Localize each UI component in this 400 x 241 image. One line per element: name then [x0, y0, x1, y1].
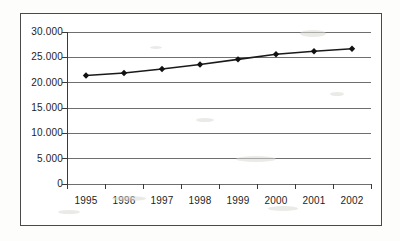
series-line — [86, 49, 352, 76]
chart-frame: 05.00010.00015.00020.00025.00030.000 199… — [20, 13, 382, 226]
x-axis-tick-label: 2001 — [302, 195, 325, 206]
data-point-marker — [121, 70, 127, 76]
screenshot-canvas: 05.00010.00015.00020.00025.00030.000 199… — [0, 0, 400, 241]
y-axis-tick-label: 15.000 — [31, 103, 63, 113]
data-point-marker — [83, 72, 89, 78]
data-point-marker — [159, 66, 165, 72]
data-point-marker — [311, 48, 317, 54]
data-point-marker — [197, 61, 203, 67]
plot-area — [67, 32, 371, 184]
x-axis-tick — [219, 184, 220, 189]
y-axis-tick-label: 10.000 — [31, 128, 63, 138]
x-axis-tick-label: 2000 — [264, 195, 287, 206]
x-axis-tick — [105, 184, 106, 189]
y-axis-tick-label: 20.000 — [31, 78, 63, 88]
x-axis-tick — [67, 184, 68, 189]
data-point-marker — [235, 56, 241, 62]
y-axis-labels: 05.00010.00015.00020.00025.00030.000 — [21, 32, 63, 184]
x-axis-tick-label: 1995 — [74, 195, 97, 206]
x-axis-tick-label: 1998 — [188, 195, 211, 206]
x-axis-tick — [295, 184, 296, 189]
y-axis-tick-label: 30.000 — [31, 27, 63, 37]
x-axis-tick-label: 1997 — [150, 195, 173, 206]
x-axis-tick — [257, 184, 258, 189]
x-axis-tick — [143, 184, 144, 189]
x-axis-tick-label: 2002 — [340, 195, 363, 206]
data-point-marker — [349, 46, 355, 52]
x-axis-tick — [333, 184, 334, 189]
x-axis-tick-label: 1999 — [226, 195, 249, 206]
y-axis-tick-label: 5.000 — [37, 154, 63, 164]
x-axis-labels: 19951996199719981999200020012002 — [67, 195, 371, 211]
x-axis-ticks — [67, 184, 371, 192]
data-point-marker — [273, 51, 279, 57]
x-axis-tick — [371, 184, 372, 189]
y-axis-tick-label: 25.000 — [31, 52, 63, 62]
line-series — [67, 32, 371, 184]
x-axis-tick-label: 1996 — [112, 195, 135, 206]
x-axis-tick — [181, 184, 182, 189]
